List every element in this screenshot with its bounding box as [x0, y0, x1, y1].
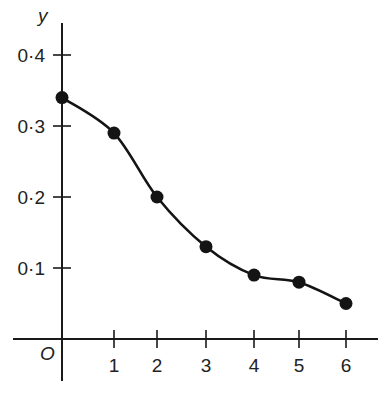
y-tick-label: 0·4 — [18, 45, 46, 66]
y-tick-label: 0·1 — [18, 258, 45, 279]
data-point — [293, 276, 306, 289]
x-tick-label: 2 — [152, 355, 163, 376]
line-chart: y O 123456 0·10·20·30·4 — [0, 0, 390, 405]
x-tick-label: 4 — [249, 355, 260, 376]
data-curve — [62, 98, 346, 304]
data-points — [56, 91, 353, 310]
data-point — [248, 269, 261, 282]
data-point — [340, 297, 353, 310]
y-tick-label: 0·2 — [18, 187, 45, 208]
data-point — [108, 127, 121, 140]
axes — [13, 23, 378, 381]
origin-label: O — [40, 343, 55, 364]
data-point — [56, 91, 69, 104]
y-axis-label: y — [36, 5, 49, 26]
x-tick-label: 6 — [341, 355, 352, 376]
data-point — [200, 240, 213, 253]
y-tick-label: 0·3 — [18, 116, 45, 137]
x-ticks: 123456 — [109, 330, 352, 376]
x-tick-label: 1 — [109, 355, 120, 376]
x-tick-label: 5 — [294, 355, 305, 376]
x-tick-label: 3 — [201, 355, 212, 376]
data-point — [151, 191, 164, 204]
